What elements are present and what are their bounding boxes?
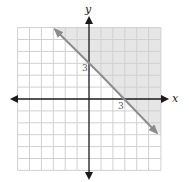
x-intercept-label: 3 <box>118 101 124 111</box>
y-intercept-label: 3 <box>82 63 88 73</box>
x-axis-label: x <box>172 92 179 105</box>
coordinate-plane: y x 3 3 <box>0 0 189 182</box>
y-axis-label: y <box>84 3 92 16</box>
